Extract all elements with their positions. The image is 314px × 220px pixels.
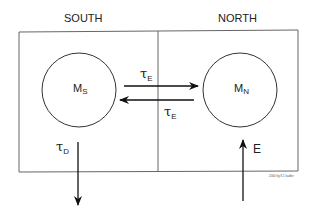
destruction-flux-label: τD — [56, 139, 69, 156]
south-region-title: SOUTH — [64, 12, 103, 24]
north-reservoir-label: MN — [234, 82, 249, 96]
south-reservoir-label: MS — [73, 82, 88, 96]
north-region-title: NORTH — [218, 12, 257, 24]
figure-credit: 2000 fig 8.1 kadler — [269, 174, 294, 178]
emission-flux-label: E — [253, 142, 261, 156]
exchange-flux-label-upper: τE — [140, 66, 153, 83]
box-model-diagram — [0, 0, 314, 220]
exchange-flux-label-lower: τE — [164, 104, 177, 121]
